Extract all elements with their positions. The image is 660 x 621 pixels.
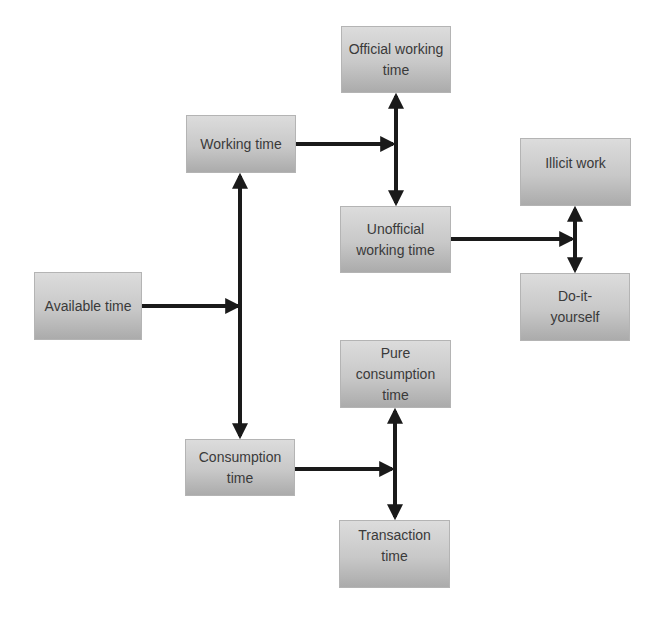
- node-official-working-time: Official working time: [341, 26, 451, 93]
- node-label: Pure consumption time: [345, 343, 446, 406]
- node-working-time: Working time: [186, 115, 296, 173]
- node-label: Consumption time: [190, 447, 290, 489]
- node-label: Working time: [200, 134, 281, 155]
- node-consumption-time: Consumption time: [185, 439, 295, 496]
- node-label: Transaction time: [344, 525, 445, 567]
- node-label: Illicit work: [545, 153, 606, 174]
- node-pure-consumption-time: Pure consumption time: [340, 340, 451, 408]
- node-label: Available time: [45, 296, 132, 317]
- node-available-time: Available time: [34, 272, 142, 340]
- node-illicit-work: Illicit work: [520, 138, 631, 206]
- node-label: Official working time: [346, 39, 446, 81]
- node-unofficial-working-time: Unofficial working time: [340, 206, 451, 273]
- node-do-it-yourself: Do-it-yourself: [520, 273, 630, 341]
- diagram-canvas: Available time Working time Consumption …: [0, 0, 660, 621]
- node-label: Do-it-yourself: [543, 286, 607, 328]
- node-label: Unofficial working time: [345, 219, 446, 261]
- node-transaction-time: Transaction time: [339, 520, 450, 588]
